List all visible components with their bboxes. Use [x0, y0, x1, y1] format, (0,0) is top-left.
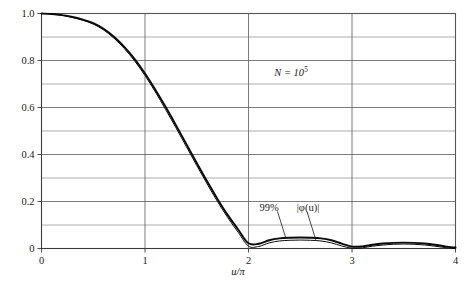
leader-line-99pct — [278, 212, 286, 238]
x-axis-tick-label: 1 — [142, 255, 147, 266]
x-axis-tick-label: 0 — [39, 255, 44, 266]
x-axis-tick-label: 2 — [246, 255, 251, 266]
y-axis-tick-label: 0 — [29, 243, 34, 254]
x-axis-tick-labels: 01234 — [39, 255, 459, 266]
x-axis-ticks — [42, 249, 456, 253]
annotation-99-percent: 99% — [259, 202, 279, 213]
y-axis-tick-label: 0.6 — [21, 102, 34, 113]
x-axis-tick-label: 4 — [453, 255, 459, 266]
annotation-sample-size: N = 105 — [273, 66, 308, 78]
y-axis-tick-labels: 00.20.40.60.81.0 — [21, 8, 35, 254]
x-axis-title: u/π — [231, 266, 245, 277]
leader-line-phi — [307, 212, 316, 241]
x-axis-tick-label: 3 — [349, 255, 354, 266]
y-axis-tick-label: 0.2 — [21, 196, 34, 207]
y-axis-tick-label: 0.4 — [21, 149, 35, 160]
characteristic-function-chart: 00.20.40.60.81.0 01234 N = 105 99% |φ(u)… — [0, 0, 473, 288]
y-axis-ticks — [38, 14, 42, 249]
annotation-phi-magnitude: |φ(u)| — [297, 202, 320, 214]
annotation-leader-lines — [278, 212, 317, 241]
y-axis-tick-label: 1.0 — [21, 8, 34, 19]
y-axis-tick-label: 0.8 — [21, 55, 34, 66]
figure-container: 00.20.40.60.81.0 01234 N = 105 99% |φ(u)… — [0, 0, 473, 288]
